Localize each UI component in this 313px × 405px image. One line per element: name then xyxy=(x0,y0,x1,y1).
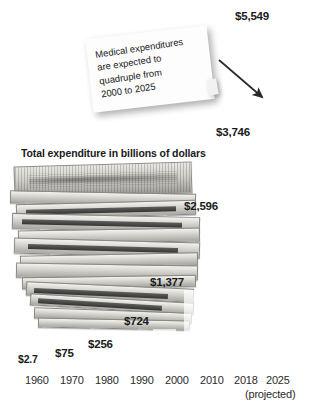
year-label-1980: 1980 xyxy=(95,374,119,386)
value-label-2025: $5,549 xyxy=(235,10,269,22)
year-label-1970: 1970 xyxy=(60,374,84,386)
chart-subtitle: Total expenditure in billions of dollars xyxy=(21,147,206,159)
value-label-2010: $2,596 xyxy=(184,200,218,212)
bar-2000 xyxy=(184,290,207,362)
bar-2010 xyxy=(214,215,237,362)
year-label-2018: 2018 xyxy=(234,374,258,386)
value-label-1980: $256 xyxy=(88,338,113,350)
note-folded-corner xyxy=(206,78,219,95)
callout-note: Medical expenditures are expected to qua… xyxy=(85,25,215,112)
projected-note: (projected) xyxy=(245,388,295,400)
year-label-1960: 1960 xyxy=(25,374,49,386)
value-label-2018: $3,746 xyxy=(216,126,250,138)
bar-1990 xyxy=(153,329,176,362)
value-label-2000: $1,377 xyxy=(150,276,184,288)
year-label-2025: 2025 xyxy=(266,374,290,386)
value-label-1960: $2.7 xyxy=(18,353,38,365)
value-label-1970: $75 xyxy=(55,347,74,359)
bar-2018 xyxy=(243,150,263,362)
year-label-1990: 1990 xyxy=(130,374,154,386)
bar-1980 xyxy=(122,350,145,362)
infographic-canvas: $2.7 $75 $256 $724 $1,377 $2,596 $3,746 … xyxy=(0,0,313,405)
year-label-2000: 2000 xyxy=(165,374,189,386)
year-label-2010: 2010 xyxy=(200,374,224,386)
value-label-1990: $724 xyxy=(124,315,149,327)
money-stack-photo xyxy=(8,162,208,362)
bar-1970 xyxy=(91,354,114,362)
bar-2025 xyxy=(266,30,289,362)
